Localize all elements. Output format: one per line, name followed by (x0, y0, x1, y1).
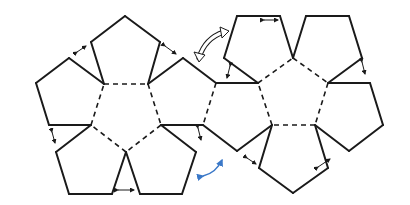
cut-edge (112, 152, 126, 194)
fold-edge (258, 83, 272, 125)
double-arrow-icon (247, 158, 256, 164)
cut-edge (349, 125, 383, 151)
fold-edge (91, 84, 104, 125)
cut-edge (182, 152, 196, 194)
fold-edge (258, 58, 293, 83)
fold-edge (315, 83, 328, 125)
cut-edge (36, 58, 69, 83)
cut-edge (69, 58, 104, 84)
cut-edge (91, 16, 125, 42)
double-arrow-icon (165, 46, 176, 54)
dashed-fold-edges (91, 58, 328, 152)
cut-edge (237, 125, 272, 151)
cut-edge (293, 168, 328, 193)
double-arrow-icon (198, 128, 201, 140)
cut-edge (126, 152, 140, 194)
cut-edge (148, 42, 160, 84)
fold-edge (203, 83, 216, 125)
double-arrow-icon (52, 132, 55, 143)
cut-edge (161, 125, 196, 152)
cut-edge (280, 16, 293, 58)
fold-edge (148, 84, 161, 125)
cut-edge (203, 125, 237, 151)
cut-edge (328, 58, 362, 83)
cut-edge (91, 42, 104, 84)
fold-edge (91, 125, 126, 152)
cut-edge (315, 125, 349, 151)
fold-edge (293, 58, 328, 83)
double-arrow-icon (77, 46, 86, 52)
cut-edge (259, 125, 272, 168)
fold-edge (126, 125, 161, 152)
cut-edge (36, 83, 49, 125)
net-drawing (0, 0, 410, 205)
cut-edge (56, 152, 69, 194)
double-arrow-icon (227, 66, 230, 78)
cut-edge (148, 58, 183, 84)
dodecahedron-net-diagram (0, 0, 410, 205)
cut-edge (259, 168, 293, 193)
cut-edge (349, 16, 362, 58)
cut-edge (293, 16, 306, 58)
cut-edge (224, 16, 237, 58)
cut-edge (370, 83, 383, 125)
double-arrow-icon (362, 62, 365, 74)
blue-curved-double-arrow-icon (203, 160, 222, 176)
gap-double-arrows (52, 20, 365, 190)
cut-edge (125, 16, 160, 42)
cut-edge (56, 125, 91, 152)
